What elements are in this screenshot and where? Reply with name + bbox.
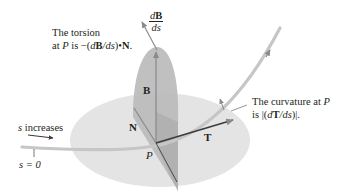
curvature-leader bbox=[231, 105, 247, 111]
torsion-line1: The torsion bbox=[52, 27, 132, 39]
tangent-label: T bbox=[204, 132, 211, 143]
point-p-label: P bbox=[146, 150, 153, 161]
normal-label: N bbox=[129, 122, 137, 133]
curvature-line1: The curvature at P bbox=[252, 96, 330, 108]
s-zero-label: s = 0 bbox=[19, 159, 41, 171]
frenet-frame-diagram: The torsion at P is −(dB/ds)•N. dB ds B … bbox=[0, 0, 349, 194]
curvature-line2: is |(dT/ds)|. bbox=[252, 109, 330, 121]
torsion-line2: at P is −(dB/ds)•N. bbox=[52, 40, 132, 52]
curvature-annotation: The curvature at P is |(dT/ds)|. bbox=[252, 96, 330, 121]
dbds-label: dB ds bbox=[149, 10, 163, 33]
s-increases-arrow bbox=[28, 135, 53, 138]
s-increases-label: s increases bbox=[18, 122, 63, 134]
torsion-annotation: The torsion at P is −(dB/ds)•N. bbox=[52, 27, 132, 52]
binormal-label: B bbox=[143, 85, 150, 96]
